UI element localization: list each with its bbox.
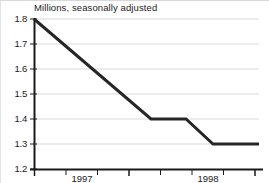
data-series-line [34, 19, 259, 144]
chart-figure: Millions, seasonally adjusted [0, 0, 269, 183]
ytick-label-1-4: 1.4 [3, 113, 27, 124]
ytick-label-1-5: 1.5 [3, 88, 27, 99]
chart-plot-area [1, 1, 269, 183]
xtick-label-1998: 1998 [188, 173, 228, 183]
ytick-label-1-8: 1.8 [3, 13, 27, 24]
xtick-label-1997: 1997 [62, 173, 102, 183]
ytick-label-1-6: 1.6 [3, 63, 27, 74]
ytick-label-1-2: 1.2 [3, 163, 27, 174]
gridlines [34, 19, 259, 144]
ytick-label-1-7: 1.7 [3, 38, 27, 49]
ytick-label-1-3: 1.3 [3, 138, 27, 149]
